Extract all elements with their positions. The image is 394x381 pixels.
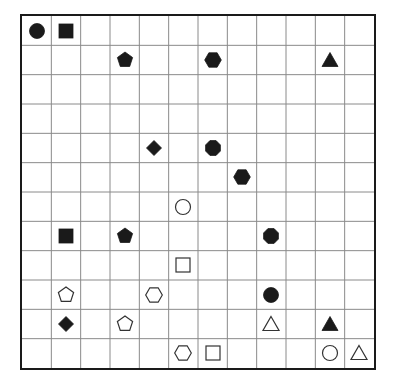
- filled-diamond-icon[interactable]: [139, 133, 168, 162]
- outline-pentagon-icon[interactable]: [51, 280, 80, 309]
- filled-triangle-icon[interactable]: [315, 45, 344, 74]
- filled-circle-icon[interactable]: [257, 280, 286, 309]
- outline-circle-icon[interactable]: [315, 339, 344, 368]
- outline-hexagon-icon[interactable]: [169, 339, 198, 368]
- filled-octagon-icon[interactable]: [257, 221, 286, 250]
- outline-pentagon-icon[interactable]: [110, 309, 139, 338]
- filled-pentagon-icon[interactable]: [110, 221, 139, 250]
- filled-circle-icon[interactable]: [22, 16, 51, 45]
- outline-hexagon-icon[interactable]: [139, 280, 168, 309]
- filled-square-icon[interactable]: [51, 221, 80, 250]
- filled-square-icon[interactable]: [51, 16, 80, 45]
- filled-hexagon-icon[interactable]: [227, 163, 256, 192]
- filled-diamond-icon[interactable]: [51, 309, 80, 338]
- game-board: [20, 14, 376, 370]
- outline-triangle-icon[interactable]: [345, 339, 374, 368]
- filled-hexagon-icon[interactable]: [198, 45, 227, 74]
- outline-circle-icon[interactable]: [169, 192, 198, 221]
- filled-triangle-icon[interactable]: [315, 309, 344, 338]
- filled-pentagon-icon[interactable]: [110, 45, 139, 74]
- outline-square-icon[interactable]: [198, 339, 227, 368]
- filled-octagon-icon[interactable]: [198, 133, 227, 162]
- outline-triangle-icon[interactable]: [257, 309, 286, 338]
- outline-square-icon[interactable]: [169, 251, 198, 280]
